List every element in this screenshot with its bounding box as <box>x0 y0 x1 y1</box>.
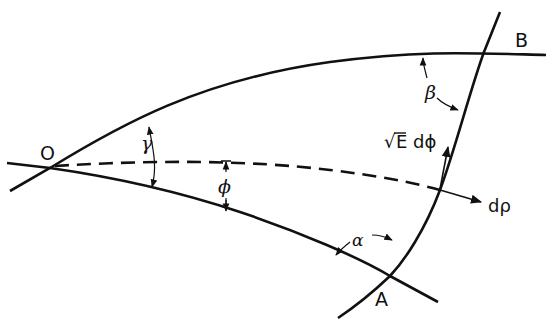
label-point-a: A <box>375 288 388 310</box>
label-d-rho: dρ <box>488 195 511 216</box>
geodesic-triangle-diagram: O A B γ ϕ β α √ E dϕ dρ <box>0 0 546 325</box>
beta-arc-upper <box>423 58 427 78</box>
alpha-arc-right <box>372 235 392 240</box>
vector-d-rho <box>440 190 481 202</box>
label-gamma: γ <box>141 132 153 154</box>
label-beta: β <box>424 81 436 103</box>
label-sqrt-e-dphi: E dϕ <box>396 131 436 152</box>
label-alpha: α <box>352 230 364 250</box>
label-sqrt-symbol: √ <box>384 131 396 152</box>
label-point-b: B <box>515 29 528 51</box>
dashed-geodesic <box>55 162 440 190</box>
beta-arc-lower <box>437 98 458 110</box>
label-phi: ϕ <box>218 175 231 197</box>
curve-ob <box>10 53 546 191</box>
label-point-o: O <box>40 142 55 164</box>
